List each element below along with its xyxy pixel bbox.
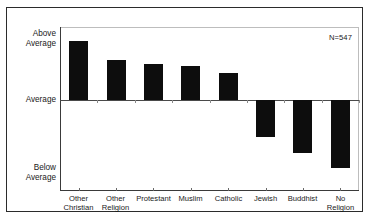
plot-area: N=547 bbox=[60, 27, 359, 191]
bar bbox=[293, 100, 312, 153]
bar bbox=[219, 73, 238, 100]
x-axis-category-label: Protestant bbox=[135, 194, 172, 203]
x-axis-category-label: No Religion bbox=[322, 194, 359, 213]
bar bbox=[256, 100, 275, 137]
chart-frame-border: N=547 Above Average Average Below Averag… bbox=[6, 7, 363, 212]
baseline-tick bbox=[247, 100, 248, 103]
x-axis-category-label: Muslim bbox=[172, 194, 209, 203]
y-axis-label-above-average: Above Average bbox=[11, 29, 56, 48]
x-axis-tick bbox=[228, 188, 229, 191]
y-axis-label-below-average: Below Average bbox=[11, 163, 56, 182]
x-axis-tick bbox=[303, 188, 304, 191]
x-axis-labels: Other ChristianOther ReligionProtestantM… bbox=[60, 194, 359, 218]
baseline-tick bbox=[284, 100, 285, 103]
bar bbox=[144, 64, 163, 100]
y-axis-label-average: Average bbox=[11, 95, 56, 105]
chart-figure: N=547 Above Average Average Below Averag… bbox=[0, 0, 370, 223]
x-axis-category-label: Catholic bbox=[210, 194, 247, 203]
x-axis-tick bbox=[340, 188, 341, 191]
x-axis-tick bbox=[79, 188, 80, 191]
baseline-tick bbox=[135, 100, 136, 103]
x-axis-category-label: Buddhist bbox=[284, 194, 321, 203]
x-axis-category-label: Jewish bbox=[247, 194, 284, 203]
x-axis-tick bbox=[191, 188, 192, 191]
bar bbox=[181, 66, 200, 100]
baseline-tick bbox=[359, 100, 360, 103]
x-axis-tick bbox=[116, 188, 117, 191]
x-axis-category-label: Other Christian bbox=[60, 194, 97, 213]
baseline-tick bbox=[322, 100, 323, 103]
baseline-tick bbox=[172, 100, 173, 103]
bar-series bbox=[60, 27, 359, 191]
baseline-tick bbox=[210, 100, 211, 103]
x-axis-tick bbox=[153, 188, 154, 191]
bar bbox=[107, 60, 126, 100]
bar bbox=[69, 41, 88, 100]
x-axis-category-label: Other Religion bbox=[97, 194, 134, 213]
baseline-tick bbox=[97, 100, 98, 103]
sample-size-annotation: N=547 bbox=[329, 33, 352, 42]
bar bbox=[331, 100, 350, 168]
x-axis-tick bbox=[266, 188, 267, 191]
